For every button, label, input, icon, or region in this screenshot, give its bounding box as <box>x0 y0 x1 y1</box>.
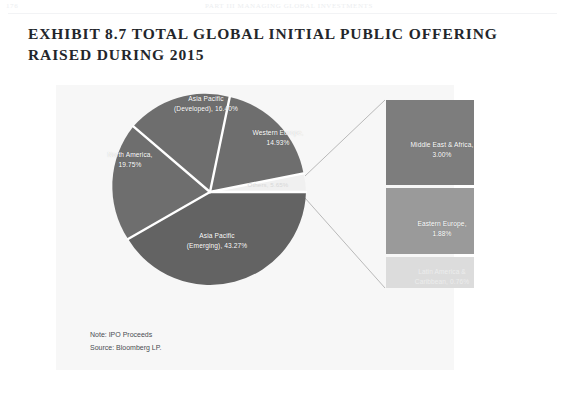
bar-label-latin-america-caribbean: Latin America & Caribbean, 0.76% <box>392 267 492 287</box>
breakout-bar <box>386 100 474 288</box>
bar-of-pie-chart <box>0 0 565 399</box>
footnote-source: Source: Bloomberg LP. <box>90 342 161 355</box>
pie-label-western-europe: Western Europe, 14.93% <box>232 128 324 147</box>
pie-label-others: Others, 5.65% <box>222 181 314 190</box>
pie-label-asia-pacific-emerging: Asia Pacific (Emerging), 43.27% <box>152 231 282 250</box>
pie-label-asia-pacific-developed: Asia Pacific (Developed), 16.40% <box>148 94 264 113</box>
pie-label-north-america: North America, 19.75% <box>82 150 178 169</box>
bar-label-middle-east-africa: Middle East & Africa, 3.00% <box>392 140 492 160</box>
chart-footnotes: Note: IPO Proceeds Source: Bloomberg LP. <box>90 329 161 355</box>
bar-label-eastern-europe: Eastern Europe, 1.88% <box>392 219 492 239</box>
footnote-note: Note: IPO Proceeds <box>90 329 161 342</box>
